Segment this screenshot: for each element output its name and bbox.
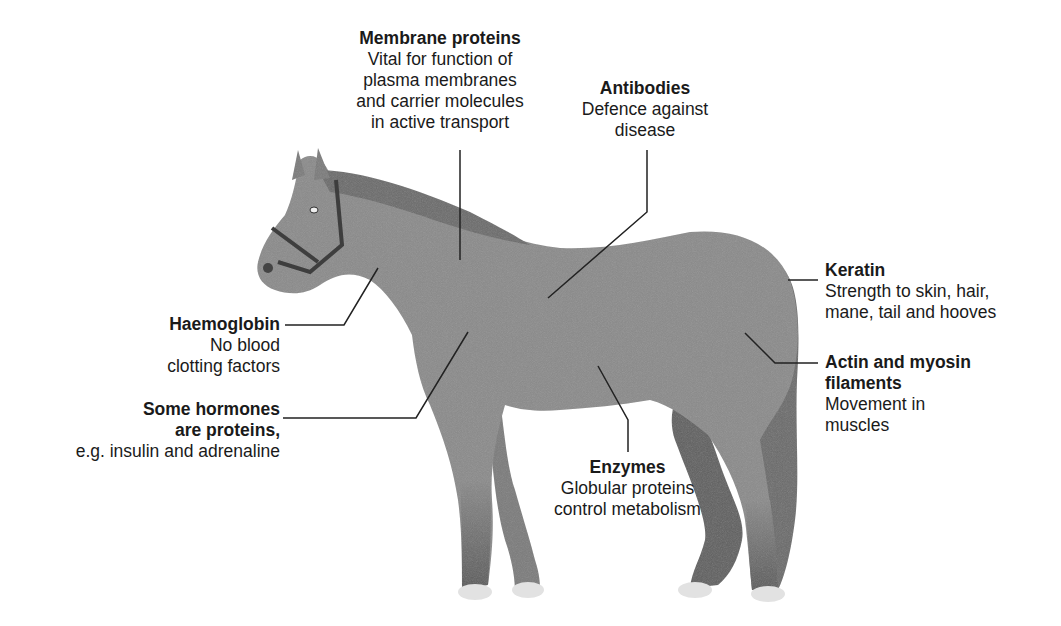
label-title: Actin and myosin	[825, 352, 1061, 373]
label-desc-line: Vital for function of	[330, 49, 550, 70]
label-title: Enzymes	[535, 457, 720, 478]
label-hormones: Some hormones are proteins, e.g. insulin…	[0, 399, 280, 462]
eye	[310, 207, 318, 213]
label-desc-line: and carrier molecules	[330, 91, 550, 112]
label-desc-line: disease	[560, 120, 730, 141]
horse-protein-diagram: Membrane proteins Vital for function of …	[0, 0, 1061, 626]
label-title: Some hormones	[0, 399, 280, 420]
hoof	[458, 584, 492, 600]
label-desc-line: Defence against	[560, 99, 730, 120]
label-desc-line: in active transport	[330, 112, 550, 133]
label-desc-line: muscles	[825, 415, 1061, 436]
label-desc-line: control metabolism	[535, 499, 720, 520]
label-actin-myosin: Actin and myosin filaments Movement in m…	[825, 352, 1061, 436]
label-title: Haemoglobin	[60, 314, 280, 335]
label-keratin: Keratin Strength to skin, hair, mane, ta…	[825, 260, 1061, 323]
label-desc-line: e.g. insulin and adrenaline	[0, 441, 280, 462]
hoof	[678, 582, 712, 598]
label-desc-line: clotting factors	[60, 356, 280, 377]
hoof	[512, 582, 544, 598]
label-title: Membrane proteins	[330, 28, 550, 49]
label-title: are proteins,	[0, 420, 280, 441]
label-desc-line: Movement in	[825, 394, 1061, 415]
label-membrane-proteins: Membrane proteins Vital for function of …	[330, 28, 550, 133]
label-desc-line: Globular proteins	[535, 478, 720, 499]
hoof	[751, 586, 785, 602]
label-title: filaments	[825, 373, 1061, 394]
near-front-lower-leg	[460, 480, 491, 588]
label-desc-line: mane, tail and hooves	[825, 302, 1061, 323]
label-enzymes: Enzymes Globular proteins control metabo…	[535, 457, 720, 520]
label-desc-line: No blood	[60, 335, 280, 356]
label-antibodies: Antibodies Defence against disease	[560, 78, 730, 141]
label-desc-line: Strength to skin, hair,	[825, 281, 1061, 302]
label-haemoglobin: Haemoglobin No blood clotting factors	[60, 314, 280, 377]
label-desc-line: plasma membranes	[330, 70, 550, 91]
label-title: Keratin	[825, 260, 1061, 281]
nostril	[263, 263, 273, 273]
label-title: Antibodies	[560, 78, 730, 99]
ear-right	[314, 148, 330, 180]
